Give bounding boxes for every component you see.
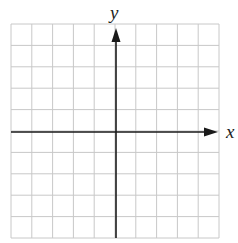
grid-lines: [11, 24, 219, 238]
y-axis-arrow-icon: [112, 28, 121, 42]
x-axis-label: x: [225, 121, 235, 142]
y-axis-label: y: [108, 2, 119, 23]
x-axis-arrow-icon: [204, 128, 218, 137]
coordinate-plane: x y: [0, 0, 238, 243]
